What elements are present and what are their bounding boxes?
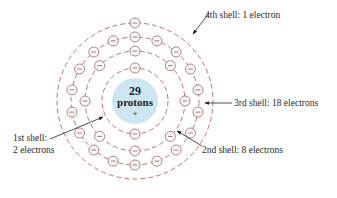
electron-icon (165, 131, 175, 141)
electron-icon (108, 156, 118, 166)
electron-icon (130, 32, 140, 42)
electron-icon (171, 47, 181, 57)
electron-icon (130, 129, 140, 139)
shell4-label: 4th shell: 1 electron (205, 10, 280, 21)
electron-icon (152, 36, 162, 46)
electron-icon (89, 47, 99, 57)
electron-icon (75, 64, 85, 74)
electron-icon (130, 46, 140, 56)
electron-icon (75, 128, 85, 138)
shell1-label-line2: 2 electrons (13, 145, 54, 156)
electron-icon (130, 160, 140, 170)
electron-icon (171, 145, 181, 155)
electron-icon (80, 96, 90, 106)
electron-icon (130, 18, 140, 28)
electron-icon (67, 107, 77, 117)
electron-icon (95, 61, 105, 71)
electron-icon (193, 107, 203, 117)
electron-icon (67, 85, 77, 95)
nucleus-label: protons (110, 96, 160, 108)
electron-icon (108, 36, 118, 46)
electron-icon (130, 146, 140, 156)
shell1-label-line1: 1st shell: (13, 133, 47, 144)
nucleus-charge: + (125, 108, 145, 118)
electron-icon (89, 145, 99, 155)
electron-icon (180, 96, 190, 106)
shell2-label: 2nd shell: 8 electrons (202, 145, 283, 156)
electron-icon (130, 63, 140, 73)
electron-icon (185, 64, 195, 74)
electron-icon (165, 61, 175, 71)
electron-icon (95, 131, 105, 141)
shell3-label: 3rd shell: 18 electrons (234, 98, 318, 109)
electron-icon (193, 85, 203, 95)
electron-icon (152, 156, 162, 166)
